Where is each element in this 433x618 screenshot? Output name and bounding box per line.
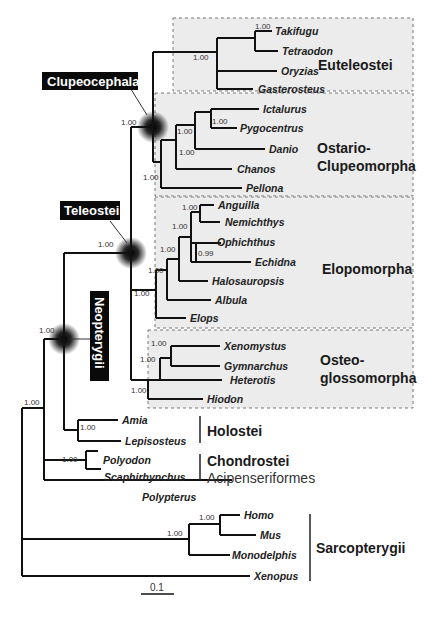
svg-text:1.00: 1.00 [134, 289, 150, 298]
taxon-pellona: Pellona [246, 182, 284, 194]
taxon-hiodon: Hiodon [207, 393, 243, 405]
clade-chondrostei: Chondrostei [207, 453, 289, 469]
svg-text:1.00: 1.00 [179, 148, 195, 157]
taxon-polyodon: Polyodon [103, 454, 151, 466]
taxon-elops: Elops [190, 312, 219, 324]
taxon-gymnarchus: Gymnarchus [224, 360, 288, 372]
taxon-albula: Albula [214, 294, 247, 306]
taxon-amia: Amia [121, 414, 148, 426]
clade-sarcopterygii: Sarcopterygii [316, 540, 405, 556]
clupeocephala-tag: Clupeocephala [42, 72, 147, 115]
taxon-tetraodon: Tetraodon [282, 45, 333, 57]
svg-text:1.00: 1.00 [24, 398, 40, 407]
svg-text:1.00: 1.00 [172, 222, 188, 231]
taxon-monodelphis: Monodelphis [232, 549, 297, 561]
scale-bar-label: 0.1 [150, 582, 164, 593]
taxon-xenomystus: Xenomystus [223, 340, 287, 352]
taxon-gasterosteus: Gasterosteus [258, 83, 325, 95]
svg-text:1.00: 1.00 [167, 529, 183, 538]
taxon-oryzias: Oryzias [281, 65, 319, 77]
teleostei-tag: Teleostei [60, 201, 127, 243]
svg-text:1.00: 1.00 [177, 127, 193, 136]
svg-text:Clupeocephala: Clupeocephala [47, 74, 140, 89]
taxon-mus: Mus [260, 529, 281, 541]
svg-text:1.00: 1.00 [182, 203, 198, 212]
taxon-polypterus: Polypterus [142, 491, 196, 503]
svg-text:1.00: 1.00 [151, 339, 167, 348]
taxon-xenopus: Xenopus [253, 570, 298, 582]
svg-text:Neopterygii: Neopterygii [92, 297, 107, 369]
svg-text:1.00: 1.00 [80, 423, 96, 432]
svg-text:1.00: 1.00 [212, 117, 228, 126]
clade-osteo-line2: glossomorpha [320, 370, 417, 386]
clade-ostario-line2: Clupeomorpha [317, 158, 416, 174]
taxon-anguilla: Anguilla [217, 199, 260, 211]
svg-text:1.00: 1.00 [255, 22, 271, 31]
clade-elopomorpha: Elopomorpha [322, 261, 412, 277]
svg-text:0.99: 0.99 [198, 249, 214, 258]
svg-text:1.00: 1.00 [160, 245, 176, 254]
taxon-pygocentrus: Pygocentrus [240, 122, 304, 134]
svg-text:1.00: 1.00 [199, 513, 215, 522]
svg-text:1.00: 1.00 [131, 386, 147, 395]
taxon-danio: Danio [269, 143, 299, 155]
taxon-scaphirhynchus: Scaphirhynchus [104, 471, 186, 483]
taxon-takifugu: Takifugu [275, 25, 319, 37]
svg-text:1.00: 1.00 [143, 173, 159, 182]
svg-text:1.00: 1.00 [98, 240, 114, 249]
clade-euteleostei: Euteleostei [318, 57, 393, 73]
svg-text:1.00: 1.00 [39, 326, 55, 335]
taxon-chanos: Chanos [237, 163, 276, 175]
clade-acipenseriformes: Acipenseriformes [207, 470, 315, 486]
clade-holostei: Holostei [207, 423, 262, 439]
taxon-lepisosteus: Lepisosteus [125, 435, 186, 447]
svg-text:1.00: 1.00 [148, 266, 164, 275]
taxon-ictalurus: Ictalurus [263, 103, 307, 115]
taxon-ophichthus: Ophichthus [217, 236, 275, 248]
svg-text:1.00: 1.00 [62, 455, 78, 464]
svg-text:1.00: 1.00 [121, 118, 137, 127]
clade-osteo-line1: Osteo- [320, 352, 365, 368]
svg-text:1.00: 1.00 [193, 53, 209, 62]
svg-text:Teleostei: Teleostei [64, 203, 119, 218]
svg-text:1.00: 1.00 [140, 355, 156, 364]
taxon-homo: Homo [244, 509, 274, 521]
taxon-heterotis: Heterotis [230, 374, 276, 386]
taxon-echidna: Echidna [255, 256, 296, 268]
clade-ostario-line1: Ostario- [317, 140, 371, 156]
phylogenetic-tree: 0.1 Takifugu Tetraodon Oryzias Gasterost… [0, 0, 433, 618]
taxon-nemichthys: Nemichthys [225, 216, 285, 228]
taxon-halosauropsis: Halosauropsis [212, 275, 285, 287]
